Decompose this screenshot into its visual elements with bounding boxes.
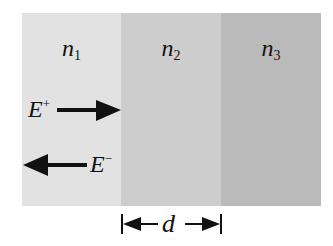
backward-arrow-icon xyxy=(23,154,87,176)
thickness-label: d xyxy=(162,209,175,239)
forward-wave-label: E+ xyxy=(28,96,50,123)
forward-arrow-icon xyxy=(57,100,121,121)
backward-wave-label: E− xyxy=(90,151,112,178)
